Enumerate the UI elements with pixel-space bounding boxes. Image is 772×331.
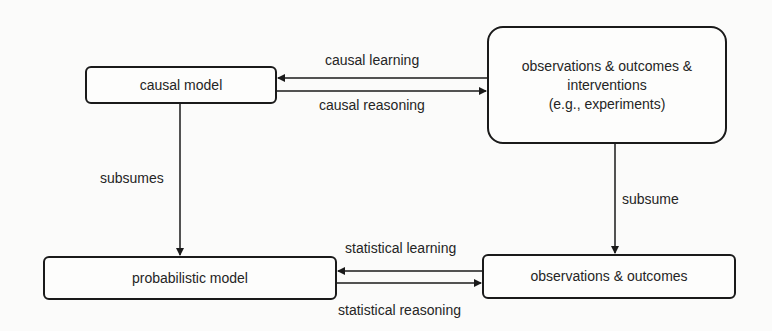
observations-interventions-line1: observations & outcomes & — [522, 57, 692, 76]
probabilistic-model-node: probabilistic model — [43, 256, 337, 300]
subsumes-label: subsumes — [100, 170, 164, 186]
subsume-label: subsume — [622, 191, 679, 207]
causal-learning-label: causal learning — [325, 52, 419, 68]
causal-model-label: causal model — [140, 76, 223, 95]
observations-outcomes-node: observations & outcomes — [482, 254, 736, 299]
observations-outcomes-label: observations & outcomes — [530, 267, 687, 286]
causal-reasoning-label: causal reasoning — [319, 97, 425, 113]
statistical-learning-label: statistical learning — [345, 240, 456, 256]
observations-interventions-line2: interventions — [522, 76, 692, 95]
observations-interventions-line3: (e.g., experiments) — [522, 95, 692, 114]
observations-interventions-text: observations & outcomes & interventions … — [522, 57, 692, 114]
statistical-reasoning-label: statistical reasoning — [338, 302, 461, 318]
causal-model-node: causal model — [85, 66, 277, 104]
observations-interventions-node: observations & outcomes & interventions … — [487, 26, 727, 144]
probabilistic-model-label: probabilistic model — [132, 269, 248, 288]
